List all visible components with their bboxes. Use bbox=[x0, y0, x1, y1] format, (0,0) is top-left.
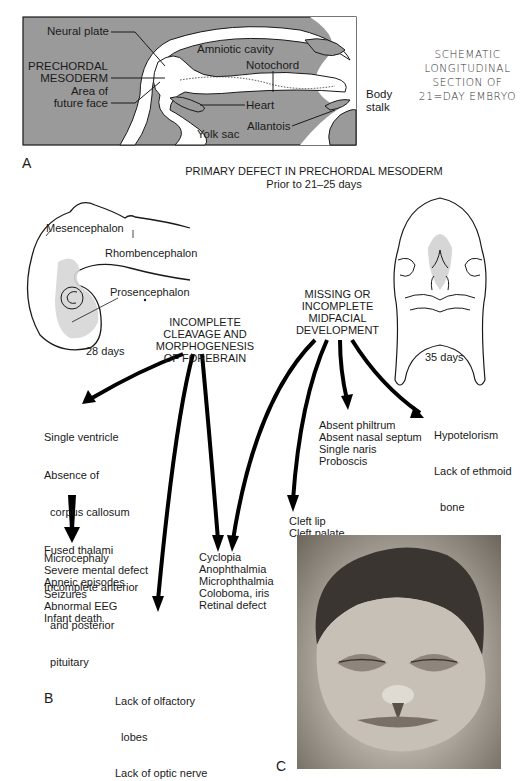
effect-item: Absent philtrum bbox=[319, 419, 422, 431]
effect-item: Retinal defect bbox=[199, 599, 274, 611]
effect-item: Microcephaly bbox=[44, 552, 148, 564]
label-future-face-2: future face bbox=[22, 97, 108, 110]
effect-item: Lack of olfactory bbox=[115, 695, 207, 707]
label-35-days: 35 days bbox=[425, 351, 464, 364]
panel-a-side-title: SCHEMATIC LONGITUDINAL SECTION OF 21=DAY… bbox=[410, 47, 525, 103]
effect-item: Cleft lip bbox=[289, 515, 345, 527]
cause-midface: MISSING OR INCOMPLETE MIDFACIAL DEVELOPM… bbox=[290, 288, 385, 336]
effects-orbit: Hypotelorism Lack of ethmoid bone bbox=[434, 405, 512, 537]
header-subtitle: Prior to 21–25 days bbox=[0, 178, 528, 191]
label-28-days: 28 days bbox=[86, 345, 125, 358]
header-title: PRIMARY DEFECT IN PRECHORDAL MESODERM bbox=[0, 165, 528, 178]
label-notochord: Notochord bbox=[246, 59, 299, 72]
label-body: Body bbox=[366, 88, 392, 101]
effects-brain: Single ventricle Absence of corpus callo… bbox=[44, 406, 138, 694]
effect-item: Anophthalmia bbox=[199, 563, 274, 575]
effect-item: Abnormal EEG bbox=[44, 600, 148, 612]
effect-item: pituitary bbox=[44, 656, 138, 669]
cause-line: INCOMPLETE bbox=[150, 316, 260, 328]
effect-item: Infant death bbox=[44, 612, 148, 624]
label-mesencephalon: Mesencephalon bbox=[46, 222, 124, 235]
effects-nose: Absent philtrum Absent nasal septum Sing… bbox=[319, 419, 422, 467]
label-allantois: Allantois bbox=[247, 120, 290, 133]
cause-line: MISSING OR bbox=[290, 288, 385, 300]
effect-item: Coloboma, iris bbox=[199, 587, 274, 599]
effect-item: Absence of bbox=[44, 469, 138, 482]
infant-photo bbox=[297, 535, 501, 769]
effects-eyes: Cyclopia Anophthalmia Microphthalmia Col… bbox=[199, 551, 274, 611]
effects-brain-sequelae: Microcephaly Severe mental defect Apneic… bbox=[44, 552, 148, 624]
cause-line: OF FOREBRAIN bbox=[150, 352, 260, 364]
side-title-line: LONGITUDINAL bbox=[410, 61, 525, 75]
panel-b-letter: B bbox=[44, 690, 53, 706]
label-amniotic-cavity: Amniotic cavity bbox=[197, 43, 274, 56]
effect-item: Seizures bbox=[44, 588, 148, 600]
effects-olfactory: Lack of olfactory lobes Lack of optic ne… bbox=[115, 671, 207, 781]
cause-line: CLEAVAGE AND bbox=[150, 328, 260, 340]
label-neural-plate: Neural plate bbox=[47, 25, 109, 38]
effect-item: Single ventricle bbox=[44, 431, 138, 444]
label-stalk: stalk bbox=[366, 101, 390, 114]
effect-item: Cyclopia bbox=[199, 551, 274, 563]
infant-face-sketch bbox=[297, 535, 501, 769]
label-rhombencephalon: Rhombencephalon bbox=[105, 247, 197, 260]
side-title-line: 21=DAY EMBRYO bbox=[410, 89, 525, 103]
cause-forebrain: INCOMPLETE CLEAVAGE AND MORPHOGENESIS OF… bbox=[150, 316, 260, 364]
effect-item: bone bbox=[434, 501, 512, 513]
cause-line: INCOMPLETE bbox=[290, 300, 385, 312]
effect-item: lobes bbox=[115, 731, 207, 743]
side-title-line: SCHEMATIC bbox=[410, 47, 525, 61]
diagram-header: PRIMARY DEFECT IN PRECHORDAL MESODERM Pr… bbox=[0, 165, 528, 191]
label-heart: Heart bbox=[246, 99, 274, 112]
label-prosencephalon: Prosencephalon bbox=[110, 286, 190, 299]
panel-c-letter: C bbox=[276, 758, 286, 774]
effect-item: Microphthalmia bbox=[199, 575, 274, 587]
side-title-line: SECTION OF bbox=[410, 75, 525, 89]
cause-line: MIDFACIAL bbox=[290, 312, 385, 324]
effect-item: Lack of ethmoid bbox=[434, 465, 512, 477]
effect-item: Absent nasal septum bbox=[319, 431, 422, 443]
effect-item: Lack of optic nerve bbox=[115, 767, 207, 779]
effect-item: Single naris bbox=[319, 443, 422, 455]
effect-item: Apneic episodes bbox=[44, 576, 148, 588]
effect-item: Hypotelorism bbox=[434, 429, 512, 441]
effect-item: corpus callosum bbox=[44, 506, 138, 519]
label-prechordal-2: MESODERM bbox=[22, 72, 108, 85]
effect-item: Severe mental defect bbox=[44, 564, 148, 576]
effect-item: Proboscis bbox=[319, 455, 422, 467]
cause-line: MORPHOGENESIS bbox=[150, 340, 260, 352]
cause-line: DEVELOPMENT bbox=[290, 324, 385, 336]
label-yolk-sac: Yolk sac bbox=[197, 128, 239, 141]
